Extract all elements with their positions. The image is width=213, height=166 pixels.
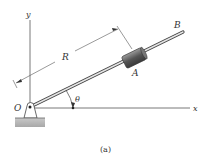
figure-caption: (a) [100,145,111,154]
angle-arc [66,90,73,108]
figure-canvas: y x O R A B θ (a) [0,0,213,166]
origin-label: O [14,103,22,113]
rod-ob [30,32,183,107]
angle-label: θ [75,95,80,104]
y-axis-label: y [25,10,31,19]
x-axis-label: x [193,104,198,113]
radius-label: R [61,52,69,62]
rod-end-label: B [173,20,181,30]
collar-label: A [131,68,139,78]
mechanism-diagram: y x O R A B θ (a) [0,0,213,166]
collar-a [121,47,148,69]
dimension-r [13,26,132,88]
